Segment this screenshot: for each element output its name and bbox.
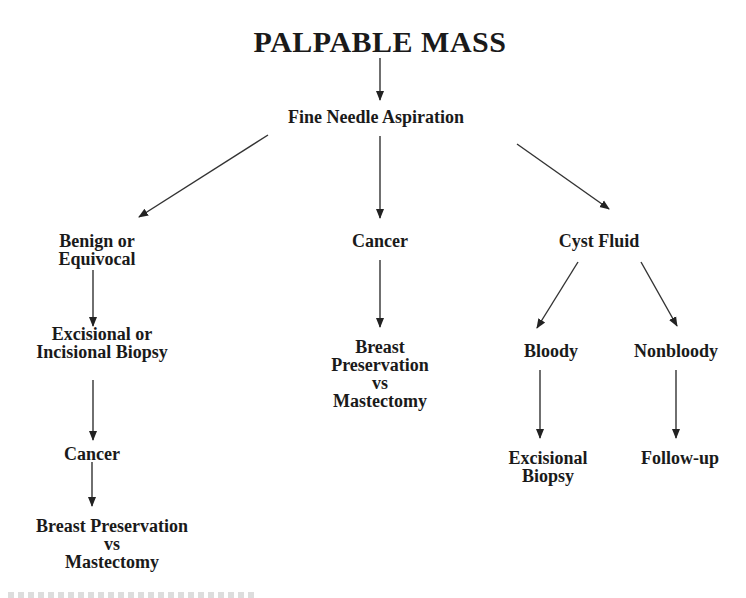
node-label: Bloody: [524, 342, 578, 360]
node-label: Breast: [331, 338, 429, 356]
node-nonbloody: Nonbloody: [634, 342, 718, 360]
node-label: Preservation: [331, 356, 429, 374]
node-label: Breast Preservation: [36, 517, 188, 535]
node-fine-needle-aspiration: Fine Needle Aspiration: [288, 108, 464, 126]
node-label: Cyst Fluid: [559, 232, 640, 250]
node-label: Benign or: [58, 232, 135, 250]
node-breast-preservation-vs-mastectomy-middle: Breast Preservation vs Mastectomy: [331, 338, 429, 410]
node-label: Equivocal: [58, 250, 135, 268]
node-follow-up: Follow-up: [641, 449, 719, 467]
arrow-fna-to-benign: [139, 135, 268, 217]
node-label: Follow-up: [641, 449, 719, 467]
node-label: vs: [36, 535, 188, 553]
node-cancer-middle: Cancer: [352, 232, 408, 250]
arrow-fna-to-cyst: [517, 144, 609, 209]
node-breast-preservation-vs-mastectomy-left: Breast Preservation vs Mastectomy: [36, 517, 188, 571]
node-label: Cancer: [64, 445, 120, 463]
arrows-layer: [0, 0, 746, 598]
node-bloody: Bloody: [524, 342, 578, 360]
flowchart-canvas: PALPABLE MASS Fine Needle Aspiration Ben…: [0, 0, 746, 598]
node-cancer-left: Cancer: [64, 445, 120, 463]
node-cyst-fluid: Cyst Fluid: [559, 232, 640, 250]
node-label: Mastectomy: [36, 553, 188, 571]
node-label: Nonbloody: [634, 342, 718, 360]
node-label: Biopsy: [508, 467, 587, 485]
node-label: Excisional or: [36, 325, 168, 343]
node-palpable-mass: PALPABLE MASS: [254, 27, 507, 57]
node-label: vs: [331, 374, 429, 392]
node-label: Cancer: [352, 232, 408, 250]
node-benign-or-equivocal: Benign or Equivocal: [58, 232, 135, 268]
node-label: Excisional: [508, 449, 587, 467]
arrow-cyst-to-nonbloody: [641, 262, 677, 326]
node-label: PALPABLE MASS: [254, 27, 507, 57]
node-label: Mastectomy: [331, 392, 429, 410]
node-label: Incisional Biopsy: [36, 343, 168, 361]
node-excisional-or-incisional-biopsy: Excisional or Incisional Biopsy: [36, 325, 168, 361]
arrow-cyst-to-bloody: [537, 262, 578, 328]
node-excisional-biopsy: Excisional Biopsy: [508, 449, 587, 485]
node-label: Fine Needle Aspiration: [288, 108, 464, 126]
cropped-caption-fragment: [8, 592, 258, 598]
